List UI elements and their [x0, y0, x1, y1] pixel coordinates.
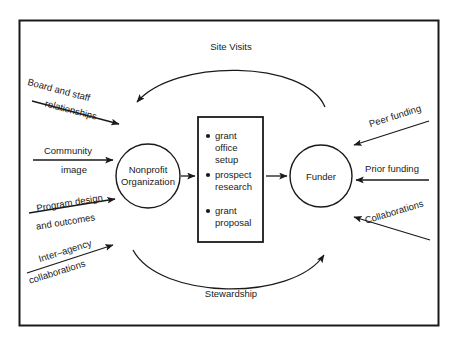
- input-label-board-and-staff-line-2: relationships: [44, 97, 99, 121]
- input-label-program-design-line-2: and outcomes: [35, 211, 96, 232]
- arc-stewardship: [133, 250, 324, 289]
- process-bullet-3-line-1: grant: [215, 205, 237, 216]
- input-label-inter-agency-line-2: collaborations: [27, 258, 86, 286]
- input-label-community-image-line-2: image: [61, 164, 87, 175]
- input-label-program-design-line-1: Program design: [35, 192, 103, 214]
- input-label-collaborations: Collaborations: [363, 198, 425, 226]
- input-label-prior-funding: Prior funding: [365, 163, 419, 174]
- arc-site-visits: [137, 70, 325, 107]
- input-label-board-and-staff-line-1: Board and staff: [26, 76, 91, 103]
- process-bullet-2-line-1: prospect: [215, 169, 252, 180]
- bullet-dot-icon: [206, 173, 210, 177]
- process-bullet-2-line-2: research: [215, 181, 252, 192]
- diagram-container: Site Visits Stewardship Nonprofit Organi…: [0, 0, 454, 342]
- process-bullet-3-line-2: proposal: [215, 217, 251, 228]
- node-nonprofit-line1: Nonprofit: [129, 164, 168, 175]
- node-nonprofit-line2: Organization: [121, 176, 175, 187]
- bullet-dot-icon: [206, 134, 210, 138]
- process-bullet-1-line-3: setup: [215, 154, 238, 165]
- arc-label-stewardship: Stewardship: [205, 288, 257, 299]
- arc-label-site-visits: Site Visits: [210, 41, 252, 52]
- input-label-community-image-line-1: Community: [44, 145, 92, 156]
- process-bullet-1-line-2: office: [215, 142, 238, 153]
- input-label-peer-funding: Peer funding: [368, 102, 423, 129]
- input-arrow-peer-funding: [354, 121, 429, 145]
- process-bullet-1-line-1: grant: [215, 130, 237, 141]
- bullet-dot-icon: [206, 209, 210, 213]
- diagram-canvas: Site Visits Stewardship Nonprofit Organi…: [0, 0, 454, 342]
- node-funder-label: Funder: [306, 171, 336, 182]
